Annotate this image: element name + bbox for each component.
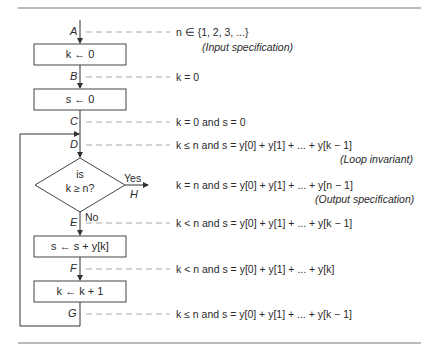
no-label: No xyxy=(85,211,98,223)
assertion-e: k < n and s = y[0] + y[1] + ... + y[k − … xyxy=(176,217,352,229)
point-label-a: A xyxy=(70,25,77,37)
assertion-b: k = 0 xyxy=(176,71,199,83)
point-label-b: B xyxy=(70,70,77,82)
note-input-spec: (Input specification) xyxy=(202,41,293,53)
point-label-h: H xyxy=(130,188,138,200)
box-init-k: k ← 0 xyxy=(34,48,126,60)
box-init-s: s ← 0 xyxy=(34,93,126,105)
box-incr: k ← k + 1 xyxy=(34,285,126,297)
assertion-c: k = 0 and s = 0 xyxy=(176,116,245,128)
point-label-c: C xyxy=(70,115,78,127)
decision-line2: k ≥ n? xyxy=(34,182,126,194)
box-add: s ← s + y[k] xyxy=(34,240,126,252)
assertion-d: k ≤ n and s = y[0] + y[1] + ... + y[k − … xyxy=(176,139,352,151)
point-label-e: E xyxy=(70,216,77,228)
point-label-f: F xyxy=(70,262,77,274)
assertion-g: k ≤ n and s = y[0] + y[1] + ... + y[k − … xyxy=(176,308,352,320)
assertion-a: n ∈ {1, 2, 3, ...} xyxy=(176,26,248,38)
point-label-g: G xyxy=(68,307,77,319)
decision-line1: is xyxy=(34,168,126,180)
yes-label: Yes xyxy=(124,172,141,184)
assertion-f: k < n and s = y[0] + y[1] + ... + y[k] xyxy=(176,263,334,275)
point-label-d: D xyxy=(70,138,78,150)
assertion-h: k = n and s = y[0] + y[1] + ... + y[n − … xyxy=(176,179,353,191)
note-output-spec: (Output specification) xyxy=(315,193,414,205)
note-loop-invariant: (Loop invariant) xyxy=(340,153,413,165)
